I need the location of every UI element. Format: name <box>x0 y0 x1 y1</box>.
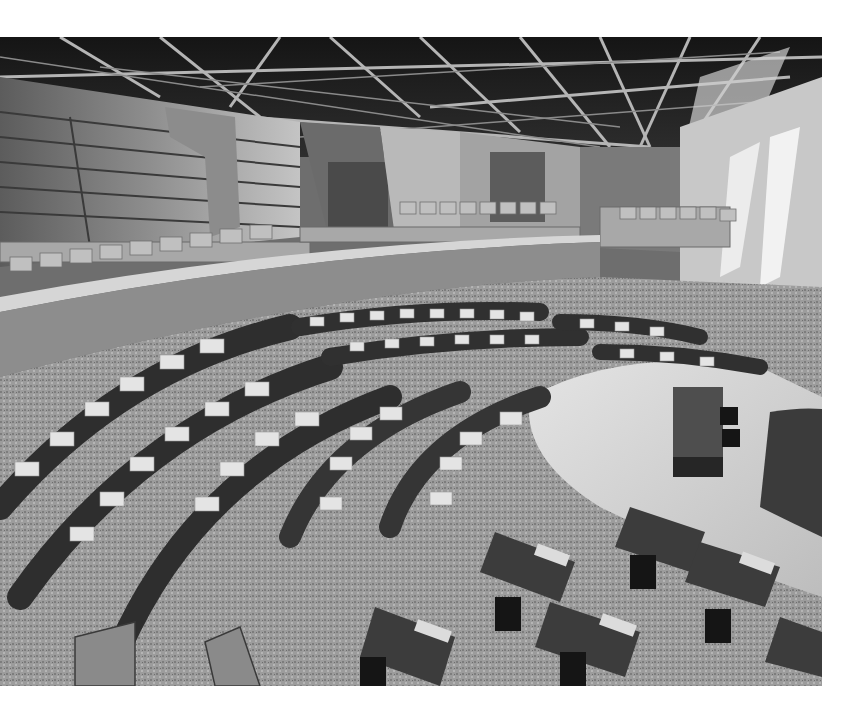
chamber-illustration <box>0 37 822 686</box>
chamber-photo: Grayscale architectural rendering of a p… <box>0 37 822 686</box>
